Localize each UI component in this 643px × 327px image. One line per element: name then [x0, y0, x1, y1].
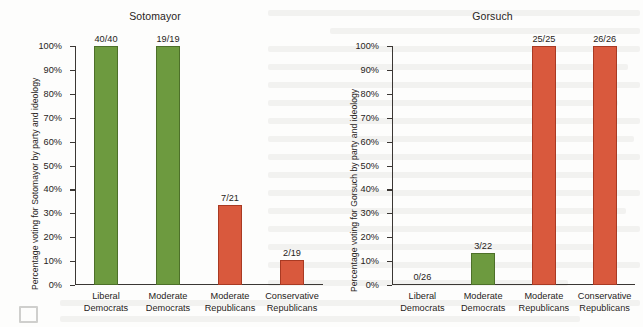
x-category-line2: Republicans	[267, 303, 318, 313]
bar-slot: 7/21 Moderate Republicans	[199, 46, 261, 285]
x-category-label: Conservative Republicans	[578, 291, 632, 314]
y-axis-title-gorsuch: Percentage voting for Gorsuch by party a…	[349, 89, 359, 292]
x-category-label: Moderate Republicans	[205, 291, 256, 314]
x-category-line2: Democrats	[84, 303, 128, 313]
y-tick-label: 90%	[361, 65, 379, 75]
page-corner-artifact	[19, 306, 38, 323]
x-category-line2: Republicans	[579, 303, 630, 313]
x-category-label: Moderate Democrats	[146, 291, 190, 314]
y-tick-label: 100%	[356, 41, 380, 51]
y-tick-label: 70%	[361, 113, 379, 123]
bar-slot: 19/19 Moderate Democrats	[137, 46, 199, 285]
y-tick-label: 80%	[44, 89, 62, 99]
y-tick-label: 80%	[361, 89, 379, 99]
y-tick-label: 40%	[44, 184, 62, 194]
bar-value-label: 0/26	[413, 272, 431, 282]
bar-slot: 2/19 Conservative Republicans	[261, 46, 323, 285]
bar-conservative-republicans[interactable]: 26/26	[593, 46, 617, 285]
chart-title-gorsuch: Gorsuch	[336, 10, 643, 22]
bar-slot: 3/22 Moderate Democrats	[453, 46, 514, 285]
bar-slot: 0/26 Liberal Democrats	[392, 46, 453, 285]
x-category-label: Liberal Democrats	[400, 291, 444, 314]
y-tick-label: 0%	[366, 280, 379, 290]
x-category-line2: Republicans	[205, 303, 256, 313]
plot-area-sotomayor: 100% 90% 80% 70% 60% 50% 40% 30% 20% 10%…	[75, 46, 323, 285]
y-tick-label: 20%	[361, 232, 379, 242]
x-category-line1: Moderate	[464, 291, 503, 301]
bar-value-label: 40/40	[95, 34, 118, 44]
x-category-line2: Democrats	[461, 303, 505, 313]
x-category-label: Moderate Democrats	[461, 291, 505, 314]
y-tick: 0%	[70, 285, 75, 286]
y-tick-label: 30%	[361, 208, 379, 218]
x-category-label: Moderate Republicans	[519, 291, 570, 314]
y-tick-label: 90%	[44, 65, 62, 75]
x-category-line1: Moderate	[211, 291, 250, 301]
y-tick-label: 100%	[39, 41, 63, 51]
y-tick: 0%	[387, 285, 392, 286]
y-tick-label: 30%	[44, 208, 62, 218]
y-tick-label: 10%	[44, 256, 62, 266]
panel-sotomayor: Sotomayor Percentage voting for Sotomayo…	[0, 0, 330, 327]
y-tick-label: 40%	[361, 184, 379, 194]
bar-value-label: 26/26	[593, 34, 616, 44]
x-category-line1: Moderate	[524, 291, 563, 301]
bar-slot: 40/40 Liberal Democrats	[75, 46, 137, 285]
figure-page: { "figure": { "background_color": "#fdfd…	[0, 0, 643, 327]
bar-moderate-republicans[interactable]: 25/25	[532, 46, 556, 285]
y-tick-label: 10%	[361, 256, 379, 266]
x-category-line1: Moderate	[149, 291, 188, 301]
bar-value-label: 3/22	[474, 241, 492, 251]
plot-area-gorsuch: 100% 90% 80% 70% 60% 50% 40% 30% 20% 10%…	[392, 46, 635, 285]
x-category-line1: Liberal	[92, 291, 120, 301]
y-axis-title-sotomayor: Percentage voting for Sotomayor by party…	[30, 78, 40, 290]
x-category-line1: Conservative	[578, 291, 632, 301]
two-panel-bar-chart: Sotomayor Percentage voting for Sotomayo…	[0, 0, 643, 327]
x-category-label: Liberal Democrats	[84, 291, 128, 314]
bar-slot: 26/26 Conservative Republicans	[574, 46, 635, 285]
bar-group-gorsuch: 0/26 Liberal Democrats 3/22 Moderate Dem…	[392, 46, 635, 285]
bar-value-label: 19/19	[157, 34, 180, 44]
y-tick-label: 50%	[361, 161, 379, 171]
bar-conservative-republicans[interactable]: 2/19	[280, 260, 304, 285]
bar-value-label: 7/21	[221, 193, 239, 203]
bar-moderate-republicans[interactable]: 7/21	[218, 205, 242, 285]
x-category-line2: Democrats	[146, 303, 190, 313]
x-category-line2: Democrats	[400, 303, 444, 313]
bar-moderate-democrats[interactable]: 19/19	[156, 46, 180, 285]
y-tick-label: 20%	[44, 232, 62, 242]
y-tick-label: 50%	[44, 161, 62, 171]
bar-value-label: 2/19	[283, 248, 301, 258]
bar-moderate-democrats[interactable]: 3/22	[471, 253, 495, 286]
bar-liberal-democrats[interactable]: 40/40	[94, 46, 118, 285]
bar-slot: 25/25 Moderate Republicans	[514, 46, 575, 285]
x-category-line2: Republicans	[519, 303, 570, 313]
x-category-label: Conservative Republicans	[265, 291, 319, 314]
x-category-line1: Conservative	[265, 291, 319, 301]
y-tick-label: 60%	[44, 137, 62, 147]
y-tick-label: 0%	[49, 280, 62, 290]
bar-value-label: 25/25	[532, 34, 555, 44]
bar-group-sotomayor: 40/40 Liberal Democrats 19/19 Moderate D…	[75, 46, 323, 285]
y-tick-label: 60%	[361, 137, 379, 147]
y-tick-label: 70%	[44, 113, 62, 123]
x-category-line1: Liberal	[409, 291, 437, 301]
panel-gorsuch: Gorsuch Percentage voting for Gorsuch by…	[330, 0, 643, 327]
chart-title-sotomayor: Sotomayor	[0, 10, 320, 22]
